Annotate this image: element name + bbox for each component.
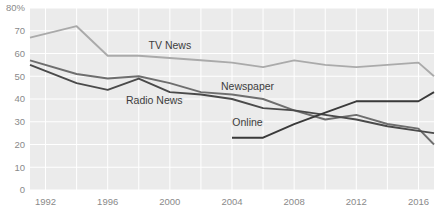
series-label-radio-news: Radio News [126,94,183,106]
x-tick-label-2012: 2012 [346,196,367,207]
x-axis-tick-labels: 1992199620002004200820122016 [35,196,429,207]
y-tick-label-80pct: 80% [6,2,26,13]
y-tick-label-0: 0 [20,184,25,195]
news-source-trend-chart: 01020304050607080% 199219962000200420082… [0,0,441,217]
x-tick-label-1992: 1992 [35,196,56,207]
x-tick-label-2004: 2004 [221,196,242,207]
x-tick-label-2008: 2008 [284,196,305,207]
y-tick-label-70: 70 [14,25,25,36]
y-tick-label-30: 30 [14,116,25,127]
x-tick-label-2016: 2016 [408,196,429,207]
x-tick-label-1996: 1996 [97,196,118,207]
series-label-online: Online [232,116,263,128]
y-tick-label-10: 10 [14,162,25,173]
y-tick-label-60: 60 [14,48,25,59]
x-tick-label-2000: 2000 [159,196,180,207]
y-tick-label-50: 50 [14,71,25,82]
series-label-tv-news: TV News [149,39,192,51]
chart-canvas: 01020304050607080% 199219962000200420082… [0,0,441,217]
y-axis-tick-labels: 01020304050607080% [6,2,26,195]
y-tick-label-20: 20 [14,139,25,150]
series-label-newspaper: Newspaper [221,80,275,92]
y-tick-label-40: 40 [14,93,25,104]
